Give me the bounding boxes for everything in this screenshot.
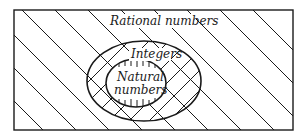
rational-numbers-label: Rational numbers bbox=[109, 14, 218, 28]
natural-numbers-label-line1: Natural bbox=[116, 70, 164, 84]
natural-numbers-label-line2: numbers bbox=[114, 83, 168, 97]
integers-label: Integers bbox=[130, 47, 182, 61]
venn-diagram: Rational numbers Integers Natural number… bbox=[0, 0, 306, 139]
